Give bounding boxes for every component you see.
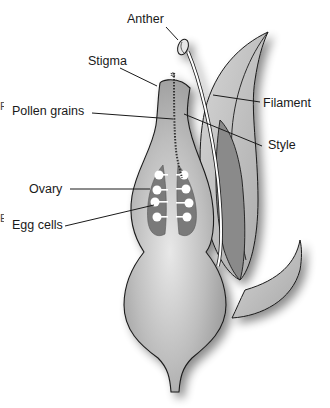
label-pollen-grains: Pollen grains (12, 104, 84, 118)
clipped-text-fragment: P (0, 100, 4, 112)
label-ovary: Ovary (29, 182, 62, 196)
flower-illustration: ✲ (0, 0, 330, 408)
label-stigma: Stigma (88, 54, 127, 68)
label-anther: Anther (127, 12, 164, 26)
label-egg-cells: Egg cells (12, 218, 63, 232)
clipped-text-fragment: E (0, 212, 4, 224)
label-filament: Filament (263, 96, 311, 110)
label-style: Style (268, 138, 296, 152)
svg-text:✲: ✲ (170, 71, 176, 79)
flower-diagram: ✲ P E Anther Stigma Pollen grains Filame… (0, 0, 330, 408)
